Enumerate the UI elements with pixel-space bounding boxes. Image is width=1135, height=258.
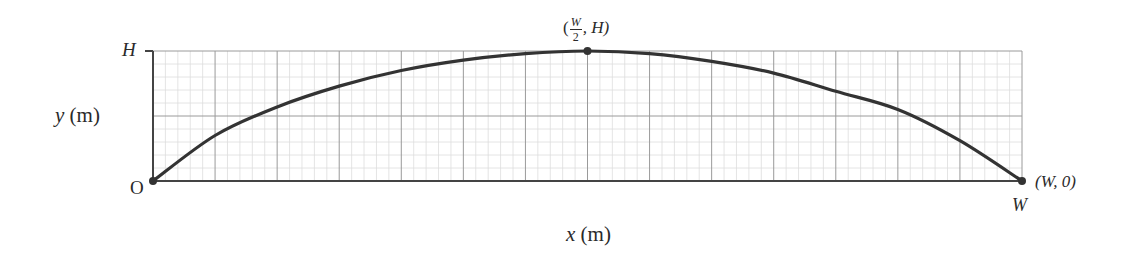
major-grid (153, 51, 1022, 181)
peak-point (584, 47, 592, 55)
peak-label: (W2, H) (563, 16, 609, 43)
peak-fraction: W2 (570, 16, 582, 43)
end-point (1018, 177, 1026, 185)
end-point-label: (W, 0) (1035, 173, 1076, 190)
fraction-numerator: W (570, 16, 582, 30)
fraction-denominator: 2 (570, 30, 582, 43)
peak-rest: , H) (583, 18, 609, 37)
origin-point (149, 177, 157, 185)
origin-label: O (130, 178, 144, 197)
y-axis-var: y (55, 103, 64, 127)
H-tick-label: H (122, 40, 136, 59)
peak-open-paren: ( (563, 18, 569, 37)
x-axis-var: x (566, 222, 575, 246)
x-axis-label: x (m) (566, 224, 611, 245)
W-tick-label: W (1012, 196, 1027, 214)
y-axis-label: y (m) (55, 105, 100, 126)
